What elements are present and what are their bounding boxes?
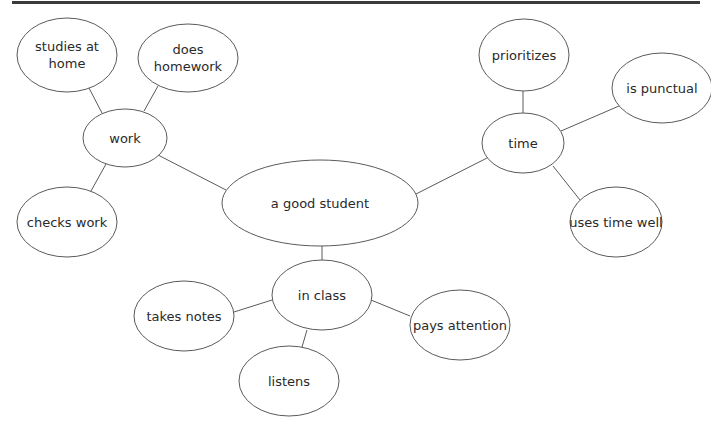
edge-work-does-homework <box>144 86 158 111</box>
node-center: a good student <box>222 160 418 246</box>
node-ellipse <box>138 24 238 92</box>
node-label: work <box>109 131 141 146</box>
node-studies-at-home: studies athome <box>17 18 117 92</box>
node-time: time <box>482 113 564 173</box>
edge-in-class-pays-attention <box>371 300 410 316</box>
edge-time-is-punctual <box>561 106 619 131</box>
node-does-homework: doeshomework <box>138 24 238 92</box>
node-label: uses time well <box>569 215 662 230</box>
edge-time-uses-time-well <box>553 166 580 200</box>
node-label: is punctual <box>626 81 697 96</box>
node-takes-notes: takes notes <box>134 281 234 351</box>
node-checks-work: checks work <box>17 187 117 257</box>
node-in-class: in class <box>272 260 372 330</box>
node-is-punctual: is punctual <box>612 53 711 123</box>
node-label: checks work <box>27 215 108 230</box>
node-label: does <box>173 42 204 57</box>
mind-map: a good studentworkstudies athomedoeshome… <box>0 0 711 437</box>
node-label: time <box>508 136 537 151</box>
node-label: listens <box>268 374 310 389</box>
node-prioritizes: prioritizes <box>479 19 569 91</box>
node-work: work <box>83 109 167 167</box>
node-label: in class <box>298 288 346 303</box>
edge-in-class-listens <box>302 330 307 347</box>
node-label: home <box>49 56 86 71</box>
edge-work-studies-at-home <box>89 88 102 113</box>
node-label: prioritizes <box>492 48 557 63</box>
node-label: takes notes <box>146 309 221 324</box>
edge-center-time <box>416 158 487 194</box>
node-label: homework <box>154 59 223 74</box>
node-label: studies at <box>35 39 99 54</box>
node-pays-attention: pays attention <box>410 290 510 360</box>
node-label: pays attention <box>413 318 507 333</box>
node-listens: listens <box>239 346 339 416</box>
node-uses-time-well: uses time well <box>569 187 662 257</box>
edge-in-class-takes-notes <box>234 300 272 312</box>
concept-nodes: a good studentworkstudies athomedoeshome… <box>17 18 711 416</box>
edge-center-work <box>158 155 226 190</box>
node-ellipse <box>17 18 117 92</box>
edge-work-checks-work <box>91 164 106 191</box>
node-label: a good student <box>271 196 369 211</box>
